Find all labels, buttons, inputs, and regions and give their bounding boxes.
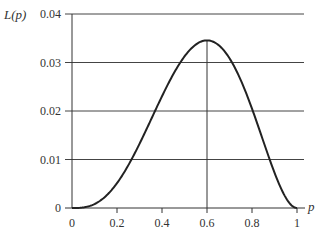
likelihood-chart: L(p) p 0 0.01 0.02 0.03 0.04 0 0.2 0.4 0… xyxy=(0,0,325,243)
y-tick-labels: 0 0.01 0.02 0.03 0.04 xyxy=(40,7,61,215)
x-tick-label: 0.4 xyxy=(155,216,170,230)
y-axis-label: L(p) xyxy=(3,7,26,22)
axes xyxy=(65,14,305,213)
grid-lines xyxy=(65,14,304,160)
y-tick-label: 0.02 xyxy=(40,104,61,118)
y-tick-label: 0.04 xyxy=(40,7,61,21)
x-axis-label: p xyxy=(307,199,315,214)
likelihood-curve xyxy=(72,40,297,208)
y-tick-label: 0.01 xyxy=(40,153,61,167)
x-tick-label: 0.2 xyxy=(110,216,125,230)
y-tick-label: 0 xyxy=(55,201,61,215)
x-tick-label: 0 xyxy=(69,216,75,230)
x-tick-label: 1 xyxy=(294,216,300,230)
y-tick-label: 0.03 xyxy=(40,56,61,70)
x-tick-label: 0.6 xyxy=(200,216,215,230)
x-tick-labels: 0 0.2 0.4 0.6 0.8 1 xyxy=(69,216,300,230)
x-tick-label: 0.8 xyxy=(245,216,260,230)
